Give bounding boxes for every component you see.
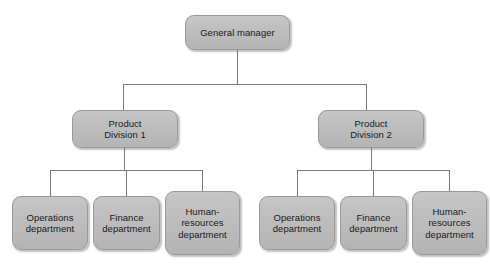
connector-to-division-2: [366, 84, 367, 110]
connector-division-2-to-operations: [297, 170, 298, 196]
node-division-1-finance-department[interactable]: Finance department: [93, 196, 160, 250]
connector-division-1-to-human-resources: [202, 170, 203, 191]
node-general-manager[interactable]: General manager: [185, 15, 290, 50]
node-division-2-finance-department[interactable]: Finance department: [340, 196, 407, 250]
connector-division-2-stem: [371, 148, 372, 170]
node-product-division-2[interactable]: Product Division 2: [318, 110, 424, 148]
node-product-division-1[interactable]: Product Division 1: [72, 110, 178, 148]
connector-division-1-stem: [124, 148, 125, 170]
connector-division-2-to-finance: [373, 170, 374, 196]
node-division-1-human-resources-department-label: Human- resources department: [175, 206, 230, 241]
connector-division-2-to-human-resources: [449, 170, 450, 191]
connector-division-1-to-operations: [50, 170, 51, 196]
node-product-division-1-label: Product Division 1: [101, 118, 149, 141]
node-division-2-human-resources-department[interactable]: Human- resources department: [412, 191, 487, 255]
node-division-2-human-resources-department-label: Human- resources department: [422, 206, 477, 241]
node-division-2-operations-department-label: Operations department: [270, 212, 325, 235]
node-general-manager-label: General manager: [197, 27, 278, 39]
node-division-1-human-resources-department[interactable]: Human- resources department: [165, 191, 240, 255]
connector-to-division-1: [123, 84, 124, 110]
node-division-1-operations-department[interactable]: Operations department: [12, 196, 88, 250]
node-division-1-finance-department-label: Finance department: [99, 212, 154, 235]
connector-division-1-to-finance: [126, 170, 127, 196]
node-product-division-2-label: Product Division 2: [347, 118, 395, 141]
node-division-2-operations-department[interactable]: Operations department: [259, 196, 335, 250]
node-division-1-operations-department-label: Operations department: [23, 212, 78, 235]
connector-root-stem: [237, 50, 238, 84]
connector-root-rail: [123, 84, 367, 85]
node-division-2-finance-department-label: Finance department: [346, 212, 401, 235]
org-chart-canvas: General manager Product Division 1 Produ…: [0, 0, 490, 269]
